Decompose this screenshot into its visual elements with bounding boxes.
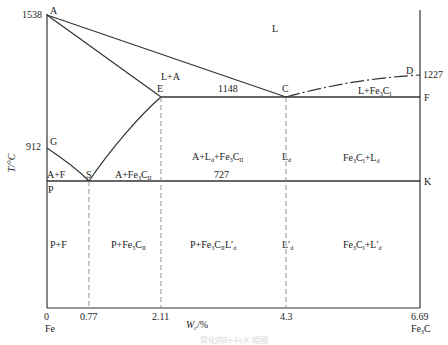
liquidus-CD [286, 75, 420, 97]
x-axis-label: Wc/% [186, 320, 208, 333]
point-D: D [406, 66, 413, 76]
point-S: S [86, 170, 92, 180]
region-L-A: L+A [161, 72, 180, 82]
point-E: E [157, 84, 163, 94]
region-P-Fe3CII-Ld: P+Fe3CIIL′d [190, 240, 236, 253]
point-P: P [48, 185, 54, 195]
solidus-AE [47, 15, 161, 97]
tick-1538: 1538 [22, 10, 42, 20]
end-label-fe3c: Fe3C [411, 324, 431, 337]
region-P-F: P+F [50, 240, 67, 250]
y-axis-label: T/°C [7, 153, 17, 172]
region-A-Ld-Fe3CII: A+Ld+Fe3CII [192, 152, 243, 165]
point-F: F [424, 93, 430, 103]
region-Ld: Ld [282, 152, 291, 165]
region-Fe3CI-Ld: Fe3CI+Ld [343, 153, 379, 166]
tick-43: 4.3 [280, 312, 293, 322]
region-A-F: A+F [47, 170, 65, 180]
isotherm-label-727: 727 [214, 170, 229, 180]
end-label-fe: Fe [45, 324, 55, 334]
tick-211: 2.11 [152, 312, 169, 322]
tick-1227: 1227 [423, 70, 443, 80]
tick-0: 0 [44, 312, 49, 322]
point-A: A [50, 6, 57, 16]
point-C: C [282, 84, 289, 94]
tick-912: 912 [26, 142, 41, 152]
figure-caption: 简化的Fe-Fe3C相图 [200, 334, 268, 345]
tick-669: 6.69 [411, 312, 429, 322]
tick-077: 0.77 [80, 312, 98, 322]
region-L: L [272, 24, 278, 34]
region-P-Fe3CII: P+Fe3CII [111, 240, 146, 253]
point-G: G [50, 137, 57, 147]
region-L-Fe3CI: L+Fe3CI [358, 86, 391, 99]
region-Fe3CI-L-prime-d: Fe3CI+L′d [343, 240, 382, 253]
isotherm-label-1148: 1148 [218, 84, 238, 94]
point-K: K [424, 177, 431, 187]
region-A-Fe3CII: A+Fe3CII [115, 170, 152, 183]
liquidus-AC [47, 15, 286, 97]
region-L-prime-d: L′d [282, 240, 293, 253]
